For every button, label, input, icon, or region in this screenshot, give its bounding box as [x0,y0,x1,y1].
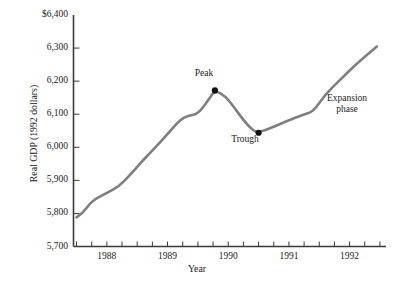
y-tick-label: $6,400 [14,9,68,20]
y-axis-title: Real GDP (1992 dollars) [28,49,39,219]
x-tick-label: 1992 [330,251,370,262]
annotation-expansion-phase: Expansion phase [316,93,378,115]
y-tick-label: 5,900 [14,174,68,185]
chart-axes [74,15,387,247]
x-tick-label: 1989 [148,251,188,262]
x-tick-label: 1988 [87,251,127,262]
y-tick-label: 6,300 [14,42,68,53]
y-tick-label: 6,200 [14,75,68,86]
marker-peak [212,87,218,93]
annotation-expansion-line1: Expansion [316,93,378,104]
x-axis-title: Year [0,263,394,274]
gdp-line-path [77,46,377,217]
gdp-business-cycle-chart: 5,7005,8005,9006,0006,1006,2006,300$6,40… [0,0,394,284]
x-tick-label: 1991 [269,251,309,262]
annotation-expansion-line2: phase [316,104,378,115]
y-tick-label: 6,000 [14,141,68,152]
y-tick-label: 6,100 [14,108,68,119]
y-tick-label: 5,700 [14,241,68,252]
x-axis-ticks [77,242,380,247]
annotation-trough: Trough [218,134,272,145]
x-tick-label: 1990 [208,251,248,262]
gdp-line-series [77,46,377,217]
y-axis-ticks [74,48,80,213]
annotation-peak: Peak [182,68,226,79]
y-tick-label: 5,800 [14,207,68,218]
